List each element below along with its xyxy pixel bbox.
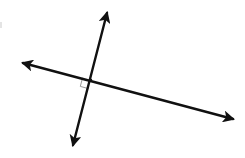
- intersection-point: [90, 79, 92, 81]
- perpendicular-lines-diagram: [0, 0, 245, 158]
- line-b: [23, 63, 233, 119]
- line-a: [73, 13, 107, 145]
